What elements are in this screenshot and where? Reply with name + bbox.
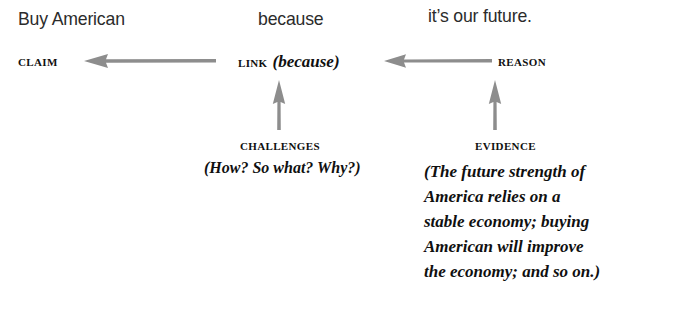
arrow-link-to-claim (84, 53, 216, 69)
arrow-reason-to-link (384, 53, 492, 69)
evidence-line-1: (The future strength of (424, 159, 674, 184)
node-label-reason: REASON (498, 52, 546, 70)
arrow-evidence-to-reason (487, 80, 503, 130)
evidence-line-4: American will improve (424, 234, 674, 259)
link-annotation: because (258, 8, 324, 30)
reason-annotation: it’s our future. (428, 5, 532, 27)
node-label-challenges: CHALLENGES (240, 136, 320, 154)
arrow-challenges-to-link (271, 80, 287, 130)
node-parenthetical-challenges: (How? So what? Why?) (204, 159, 361, 177)
node-link-group: LINK (because) (238, 52, 340, 72)
node-parenthetical-link: (because) (273, 52, 340, 72)
node-label-link: LINK (238, 53, 268, 71)
node-parenthetical-evidence: (The future strength of America relies o… (424, 159, 674, 284)
claim-annotation: Buy American (18, 8, 125, 30)
evidence-line-5: the economy; and so on.) (424, 259, 674, 284)
node-label-evidence: EVIDENCE (475, 136, 536, 154)
evidence-line-2: America relies on a (424, 184, 674, 209)
argument-structure-diagram: Buy American because it’s our future. CL… (0, 0, 688, 320)
node-label-claim: CLAIM (18, 52, 58, 70)
evidence-line-3: stable economy; buying (424, 209, 674, 234)
